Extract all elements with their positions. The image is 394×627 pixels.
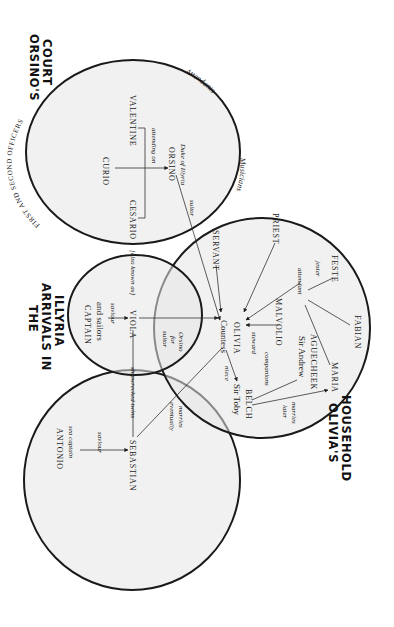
orsino-label: ORSINO — [167, 147, 176, 182]
svg-text:HOUSEHOLD: HOUSEHOLD — [339, 395, 353, 482]
companions-label: companions — [263, 352, 271, 386]
valentine-label: VALENTINE — [128, 95, 137, 147]
sebastian-label: SEBASTIAN — [128, 440, 137, 491]
captain-desc: and sailors — [95, 302, 105, 341]
antonio-label: ANTONIO — [55, 428, 64, 470]
also-known-as-label: [also known as] — [129, 250, 137, 295]
svg-text:COURT: COURT — [40, 39, 54, 86]
saviour-sebastian-label: saviour — [96, 432, 104, 453]
arrivals-title: THE ARRIVALS IN ILLYRIA — [26, 283, 66, 371]
belch-label: BELCH — [244, 389, 253, 419]
shipwrecked-twins-label: shipwrecked twins — [129, 367, 137, 419]
viola-label: VIOLA — [128, 310, 137, 339]
eventually-marries-label-2: marries — [177, 406, 185, 428]
saviour-viola-label: saviour — [109, 303, 117, 324]
svg-text:THE: THE — [26, 305, 40, 332]
svg-text:ORSINO'S: ORSINO'S — [27, 34, 41, 101]
svg-text:OLIVIA'S: OLIVIA'S — [326, 403, 340, 463]
malvolio-label: MALVOLIO — [274, 298, 283, 346]
attending-on-label: attending on — [150, 128, 158, 164]
sir-toby-label: Sir Toby — [232, 384, 242, 415]
character-map-diagram: ORSINO'S COURT THE ARRIVALS IN ILLYRIA O… — [0, 0, 394, 627]
antonio-desc: sea captain — [67, 426, 75, 459]
priest-label: PRIEST — [271, 213, 280, 244]
curio-label: CURIO — [101, 157, 110, 186]
later-marries-label-1: later — [281, 405, 289, 418]
feste-label: FESTE — [330, 255, 339, 283]
aguecheek-label: AGUECHEEK — [309, 334, 318, 390]
eventually-marries-label-1: eventually — [168, 402, 176, 432]
later-marries-label-2: marries — [290, 402, 298, 424]
suitor-for-orsino-label-2: for — [169, 336, 177, 344]
orsino-desc: Duke of Illyria — [179, 143, 187, 186]
attendant-label: attendant — [296, 268, 304, 295]
jester-label: jester — [314, 260, 322, 277]
steward-label: steward — [250, 332, 258, 354]
suitor-orsino-label: suitor — [188, 200, 196, 217]
orsinos-court-title: ORSINO'S COURT — [27, 34, 54, 101]
niece-label: niece — [223, 366, 231, 381]
svg-text:ARRIVALS IN: ARRIVALS IN — [39, 283, 53, 371]
olivias-household-title: OLIVIA'S HOUSEHOLD — [326, 395, 353, 482]
svg-text:ILLYRIA: ILLYRIA — [52, 295, 66, 347]
suitor-for-orsino-label-1: suitor — [161, 331, 169, 348]
suitor-for-orsino-label-3: Orsino — [177, 332, 185, 352]
sir-andrew-label: Sir Andrew — [297, 336, 307, 378]
cesario-label: CESARIO — [128, 200, 137, 240]
maria-label: MARIA — [330, 362, 339, 393]
servant-label: SERVANT — [211, 230, 220, 271]
olivia-label: OLIVIA — [232, 322, 241, 354]
captain-label: CAPTAIN — [83, 305, 92, 345]
fabian-label: FABIAN — [353, 315, 362, 349]
countess-label: Countess — [219, 320, 229, 354]
